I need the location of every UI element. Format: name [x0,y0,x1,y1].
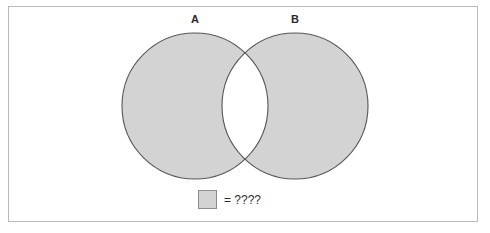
legend-label: = ???? [224,194,261,206]
shaded-symmetric-difference [122,33,368,179]
set-label-b: B [285,14,305,25]
legend-swatch-icon [198,190,217,209]
venn-diagram-figure: A B = ???? [0,0,490,233]
set-label-a: A [185,14,205,25]
legend: = ???? [198,190,261,209]
